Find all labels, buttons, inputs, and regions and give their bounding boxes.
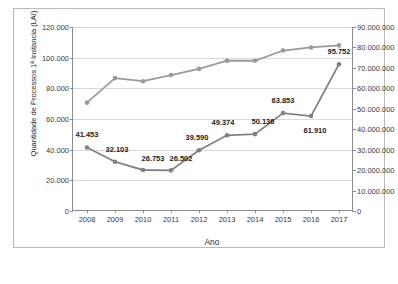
data-point <box>141 168 146 173</box>
data-point <box>253 132 258 137</box>
y-axis-right-tick <box>353 88 356 89</box>
y-axis-right-tick-label: 50.000.000 <box>357 104 395 113</box>
data-label: 49.374 <box>212 118 235 127</box>
x-axis-tick-label: 2013 <box>219 215 236 224</box>
data-point <box>85 145 90 150</box>
data-point <box>281 48 286 53</box>
y-axis-right-tick-label: 30.000.000 <box>357 145 395 154</box>
data-label: 63.853 <box>272 96 295 105</box>
y-axis-right-tick <box>353 47 356 48</box>
x-axis-tick-label: 2008 <box>79 215 96 224</box>
data-point <box>197 67 202 72</box>
right-axis-line <box>352 27 353 212</box>
y-axis-right-tick-label: 10.000.000 <box>357 186 395 195</box>
data-point <box>169 73 174 78</box>
y-axis-right-tick <box>353 27 356 28</box>
y-axis-right-tick <box>353 191 356 192</box>
data-label: 26.753 <box>142 153 165 162</box>
y-axis-right-tick-label: 0 <box>357 207 361 216</box>
x-axis-tick-label: 2016 <box>303 215 320 224</box>
data-label: 26.502 <box>170 154 193 163</box>
y-axis-left-tick-label: 120.000 <box>42 23 69 32</box>
data-label: 95.752 <box>328 47 351 56</box>
chart-container: 020.00040.00060.00080.000100.000120.0000… <box>0 0 398 284</box>
data-point <box>309 114 314 119</box>
data-label: 39.590 <box>186 133 209 142</box>
y-axis-right-tick <box>353 150 356 151</box>
data-point <box>225 58 230 63</box>
y-axis-right-tick <box>353 68 356 69</box>
data-point <box>85 100 90 105</box>
series-line <box>87 45 339 102</box>
y-axis-left-tick-label: 80.000 <box>46 84 69 93</box>
x-axis-tick-label: 2011 <box>163 215 179 224</box>
y-axis-right-tick <box>353 211 356 212</box>
data-point <box>141 79 146 84</box>
y-axis-left-tick-label: 0 <box>65 207 69 216</box>
data-point <box>281 111 286 116</box>
data-point <box>197 148 202 153</box>
x-axis-tick-label: 2015 <box>275 215 292 224</box>
y-axis-right-tick-label: 70.000.000 <box>357 63 395 72</box>
y-axis-right-tick-label: 20.000.000 <box>357 166 395 175</box>
data-point <box>309 45 314 50</box>
y-axis-left-tick-label: 20.000 <box>46 176 69 185</box>
data-point <box>253 58 258 63</box>
x-axis-tick-label: 2010 <box>135 215 152 224</box>
y-axis-left-tick-label: 40.000 <box>46 145 69 154</box>
x-axis-tick-label: 2014 <box>247 215 264 224</box>
data-point <box>113 159 118 164</box>
data-label: 50.136 <box>252 117 275 126</box>
x-axis-tick-label: 2017 <box>331 215 348 224</box>
plot-area: 020.00040.00060.00080.000100.000120.0000… <box>72 27 352 211</box>
x-axis-tick-label: 2009 <box>107 215 124 224</box>
data-point <box>337 62 342 67</box>
data-point <box>113 76 118 81</box>
y-axis-right-tick-label: 40.000.000 <box>357 125 395 134</box>
y-axis-left-title: Quantidade de Processos 1ª Instancia (LA… <box>29 0 38 179</box>
data-label: 32.103 <box>106 144 129 153</box>
y-axis-right-tick <box>353 170 356 171</box>
data-label: 61.910 <box>304 126 327 135</box>
y-axis-right-tick <box>353 129 356 130</box>
chart-frame: 020.00040.00060.00080.000100.000120.0000… <box>13 8 385 248</box>
x-axis-title: Ano <box>72 237 352 247</box>
y-axis-right-tick <box>353 109 356 110</box>
y-axis-right-tick-label: 90.000.000 <box>357 23 395 32</box>
data-point <box>225 133 230 138</box>
y-axis-left-tick-label: 100.000 <box>42 53 69 62</box>
y-axis-right-tick-label: 60.000.000 <box>357 84 395 93</box>
y-axis-left-tick <box>70 211 73 212</box>
y-axis-right-tick-label: 80.000.000 <box>357 43 395 52</box>
x-axis-tick-label: 2012 <box>191 215 208 224</box>
data-label: 41.453 <box>76 130 99 139</box>
y-axis-left-tick-label: 60.000 <box>46 115 69 124</box>
data-point <box>169 168 174 173</box>
